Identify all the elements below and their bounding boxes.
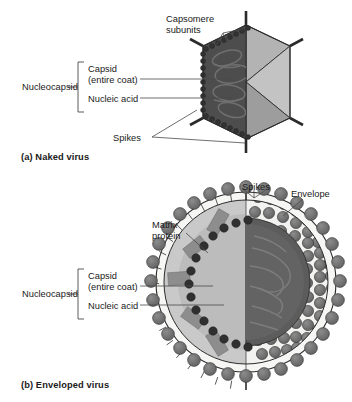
panel-a-spikes-label: Spikes	[113, 133, 141, 143]
panel-b-envelope-label: Envelope	[291, 189, 330, 199]
panel-b-nucleocapsid-label: Nucleocapsid	[22, 289, 78, 299]
panel-a-nucleic-acid-label: Nucleic acid	[88, 94, 138, 104]
panel-a-naked-virus: Capsomere subunits Nucleocapsid Capsid (…	[21, 11, 303, 162]
capsomere-label: Capsomere	[166, 14, 214, 24]
panel-b-capsid-label-line2: (entire coat)	[88, 282, 138, 292]
panel-b-caption: (b) Enveloped virus	[21, 380, 109, 390]
panel-b-matrix-label-line2: protein	[152, 231, 180, 241]
panel-b-capsid-label: Capsid	[88, 271, 117, 281]
virus-diagram-canvas: Capsomere subunits Nucleocapsid Capsid (…	[0, 0, 352, 402]
panel-b-spikes-label: Spikes	[242, 182, 270, 192]
capsomere-label-line2: subunits	[166, 25, 201, 35]
virus-structure-figure: Capsomere subunits Nucleocapsid Capsid (…	[0, 0, 352, 402]
panel-a-capsid-label-line2: (entire coat)	[88, 75, 138, 85]
panel-a-caption: (a) Naked virus	[21, 152, 89, 162]
panel-a-nucleocapsid-label: Nucleocapsid	[22, 82, 78, 92]
panel-a-capsid-label: Capsid	[88, 64, 117, 74]
panel-b-matrix-label: Matrix	[152, 220, 178, 230]
panel-b-enveloped-virus: Spikes Envelope Matrix protein Nucleocap…	[21, 181, 346, 390]
panel-b-nucleic-acid-label: Nucleic acid	[88, 301, 138, 311]
